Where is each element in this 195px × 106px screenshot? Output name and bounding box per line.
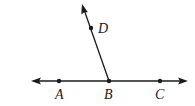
label-d: D [97, 21, 108, 36]
point-c [158, 79, 162, 83]
label-b: B [104, 87, 113, 102]
point-b [107, 79, 111, 83]
point-d [89, 26, 93, 30]
labels: A B C D [54, 21, 165, 102]
label-c: C [155, 87, 165, 102]
geometry-diagram: A B C D [0, 0, 195, 106]
point-a [57, 79, 61, 83]
ray-bd [81, 4, 109, 81]
points [57, 26, 162, 83]
label-a: A [54, 87, 64, 102]
